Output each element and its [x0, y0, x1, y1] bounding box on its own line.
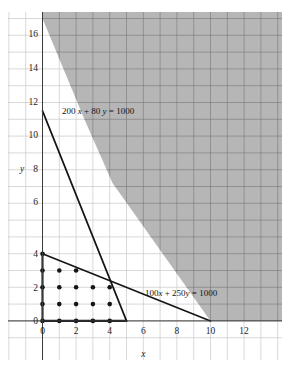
x-axis-title: x	[140, 349, 146, 359]
x-tick-2: 2	[74, 326, 79, 336]
lattice-point	[57, 285, 62, 290]
eq1-part-4: = 1000	[107, 106, 135, 116]
lattice-point	[57, 302, 62, 307]
y-tick-6: 6	[33, 197, 38, 207]
equation-label-100x-250y: 100x + 250y = 1000	[145, 288, 218, 298]
y-tick-2: 2	[33, 283, 38, 293]
y-tick-12: 12	[29, 97, 39, 107]
lattice-point	[91, 302, 96, 307]
eq2-part-0: 100	[145, 288, 159, 298]
y-tick-4: 4	[33, 249, 38, 259]
lattice-point	[74, 302, 79, 307]
y-tick-0: 0	[33, 316, 38, 326]
lattice-point	[74, 285, 79, 290]
x-tick-12: 12	[239, 326, 249, 336]
lattice-point	[74, 268, 79, 273]
lattice-point	[91, 285, 96, 290]
x-tick-10: 10	[206, 326, 216, 336]
eq2-part-4: = 1000	[190, 288, 218, 298]
y-tick-16: 16	[29, 29, 39, 39]
x-tick-0: 0	[40, 326, 45, 336]
x-tick-6: 6	[141, 326, 146, 336]
y-tick-10: 10	[29, 130, 39, 140]
y-tick-14: 14	[29, 63, 39, 73]
eq1-part-2: + 80	[82, 106, 103, 116]
lattice-point	[107, 302, 112, 307]
linear-programming-figure: 16 14 12 10 8 6 4 2 0 0 2 4 6 8 10 12 y …	[0, 0, 290, 379]
equation-label-200x-80y: 200 x + 80 y = 1000	[62, 106, 135, 116]
lattice-point	[57, 268, 62, 273]
y-tick-8: 8	[33, 164, 38, 174]
y-axis-title: y	[19, 164, 25, 174]
lattice-point	[107, 285, 112, 290]
x-tick-8: 8	[175, 326, 180, 336]
eq2-part-2: + 250	[163, 288, 187, 298]
feasible-region-plot: 16 14 12 10 8 6 4 2 0 0 2 4 6 8 10 12 y …	[0, 0, 290, 379]
x-tick-4: 4	[107, 326, 112, 336]
eq1-part-0: 200	[62, 106, 78, 116]
